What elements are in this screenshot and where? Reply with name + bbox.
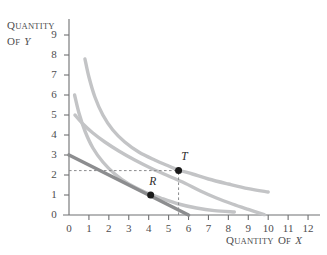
budget-line	[69, 155, 189, 215]
data-point-r	[147, 192, 154, 199]
x-tick-label-4: 4	[142, 222, 156, 234]
y-tick-label-5: 5	[47, 108, 61, 120]
point-label-r: R	[146, 175, 160, 187]
point-label-t: T	[178, 150, 192, 162]
y-tick-label-1: 1	[47, 188, 61, 200]
y-axis-title-f: F	[15, 37, 20, 47]
x-tick-label-6: 6	[182, 222, 196, 234]
x-tick-label-9: 9	[241, 222, 255, 234]
y-tick-label-8: 8	[47, 48, 61, 60]
x-tick-label-12: 12	[301, 222, 315, 234]
x-tick-label-5: 5	[162, 222, 176, 234]
y-tick-label-6: 6	[47, 88, 61, 100]
x-axis-title-uantity: UANTITY	[234, 236, 274, 246]
x-axis-title-q: Q	[226, 234, 234, 246]
y-tick-label-9: 9	[47, 28, 61, 40]
x-axis-title: QUANTITY OF X	[226, 232, 302, 248]
x-axis-title-o: O	[278, 234, 286, 246]
x-tick-label-7: 7	[201, 222, 215, 234]
x-tick-label-3: 3	[122, 222, 136, 234]
y-axis-variable: Y	[24, 35, 30, 47]
y-tick-label-3: 3	[47, 148, 61, 160]
x-axis-variable: X	[295, 234, 302, 246]
x-tick-label-11: 11	[281, 222, 295, 234]
x-tick-label-8: 8	[221, 222, 235, 234]
x-tick-label-2: 2	[102, 222, 116, 234]
x-tick-label-1: 1	[82, 222, 96, 234]
x-tick-label-0: 0	[62, 222, 76, 234]
y-axis-title-o: O	[7, 35, 15, 47]
y-axis-title-q: Q	[7, 19, 15, 31]
y-tick-label-7: 7	[47, 68, 61, 80]
x-tick-label-10: 10	[261, 222, 275, 234]
y-tick-label-4: 4	[47, 128, 61, 140]
x-axis-title-f: F	[286, 236, 291, 246]
y-tick-label-0: 0	[47, 208, 61, 220]
y-tick-label-2: 2	[47, 168, 61, 180]
indifference-curve-figure: QUANTITY OF Y QUANTITY OF X 012345678901…	[0, 0, 327, 255]
data-point-t	[175, 167, 182, 174]
